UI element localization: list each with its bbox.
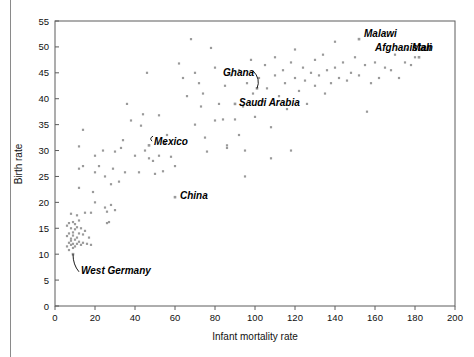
data-point [194,72,196,74]
x-tick-label: 20 [90,312,101,323]
data-point [302,67,304,69]
data-point [158,155,160,157]
data-point [214,119,216,121]
data-point [82,129,84,131]
annotation-label-ghana: Ghana [223,67,255,78]
data-point [154,173,156,175]
data-point [378,77,380,79]
data-point [190,38,192,40]
data-point [70,240,72,242]
data-point [122,139,124,141]
data-point [86,243,88,245]
data-point [90,212,92,214]
y-tick-label: 30 [38,145,49,156]
data-point [270,126,272,128]
y-tick-label: 40 [38,93,49,104]
data-point [322,54,324,56]
data-point [398,77,400,79]
data-point [264,64,266,66]
x-tick-label: 180 [407,312,423,323]
data-point [226,144,228,146]
data-point [76,243,78,245]
data-point [138,171,140,173]
data-point [214,67,216,69]
data-point [78,241,80,243]
y-axis-title: Birth rate [13,143,24,184]
data-point [224,85,226,87]
annotation-leader-line [151,136,153,141]
data-point [282,69,284,71]
data-point [74,223,76,225]
data-point [84,230,86,232]
x-tick-label: 140 [327,312,343,323]
plot-frame [55,21,455,306]
data-point [170,156,172,158]
data-point [370,82,372,84]
data-point [108,221,110,223]
data-point [104,206,106,208]
data-point [238,134,240,136]
data-point [114,209,116,211]
data-point [270,157,272,159]
x-tick-label: 40 [130,312,141,323]
data-point [72,234,74,236]
x-tick-label: 200 [447,312,463,323]
data-point [88,237,90,239]
data-point [194,124,196,126]
data-point [404,61,406,63]
data-point [130,119,132,121]
annotation-label-malawi: Malawi [364,28,397,39]
data-point [126,103,128,105]
data-point [66,245,68,247]
data-point [358,74,360,76]
data-point [148,157,150,159]
x-tick-label: 60 [170,312,181,323]
data-point [330,82,332,84]
data-point [76,226,78,228]
data-point [314,85,316,87]
data-point [204,136,206,138]
data-point [326,69,328,71]
data-point [252,92,254,94]
data-point [70,227,72,229]
data-point [274,74,276,76]
annotated-point [174,196,177,199]
y-axis-tick-labels: 0510152025303540455055 [38,16,49,312]
x-tick-label: 0 [52,312,57,323]
data-point [102,149,104,151]
annotation-label-mexico: Mexico [154,136,188,147]
data-point [72,243,74,245]
data-point [82,165,84,167]
data-point [202,92,204,94]
y-tick-label: 35 [38,119,49,130]
data-point [306,103,308,105]
data-point [74,239,76,241]
data-point [244,149,246,151]
data-point [72,221,74,223]
data-point [234,118,236,120]
data-point [92,191,94,193]
data-point [70,238,72,240]
data-point [410,64,412,66]
data-point [158,114,160,116]
scatter-plot-svg: 020406080100120140160180200 051015202530… [0,0,474,357]
data-point [162,170,164,172]
data-point [294,77,296,79]
data-point [374,61,376,63]
y-tick-label: 50 [38,41,49,52]
scatter-plot-figure: 020406080100120140160180200 051015202530… [0,0,474,357]
data-point [74,245,76,247]
data-point [84,212,86,214]
x-axis-tick-labels: 020406080100120140160180200 [52,312,463,323]
data-point [182,77,184,79]
y-axis-ticks [55,21,59,306]
data-point [72,231,74,233]
data-point [350,72,352,74]
data-point [76,214,78,216]
data-point [310,72,312,74]
data-point [110,204,112,206]
data-point [104,175,106,177]
data-point [284,82,286,84]
data-point [106,222,108,224]
data-point [218,103,220,105]
